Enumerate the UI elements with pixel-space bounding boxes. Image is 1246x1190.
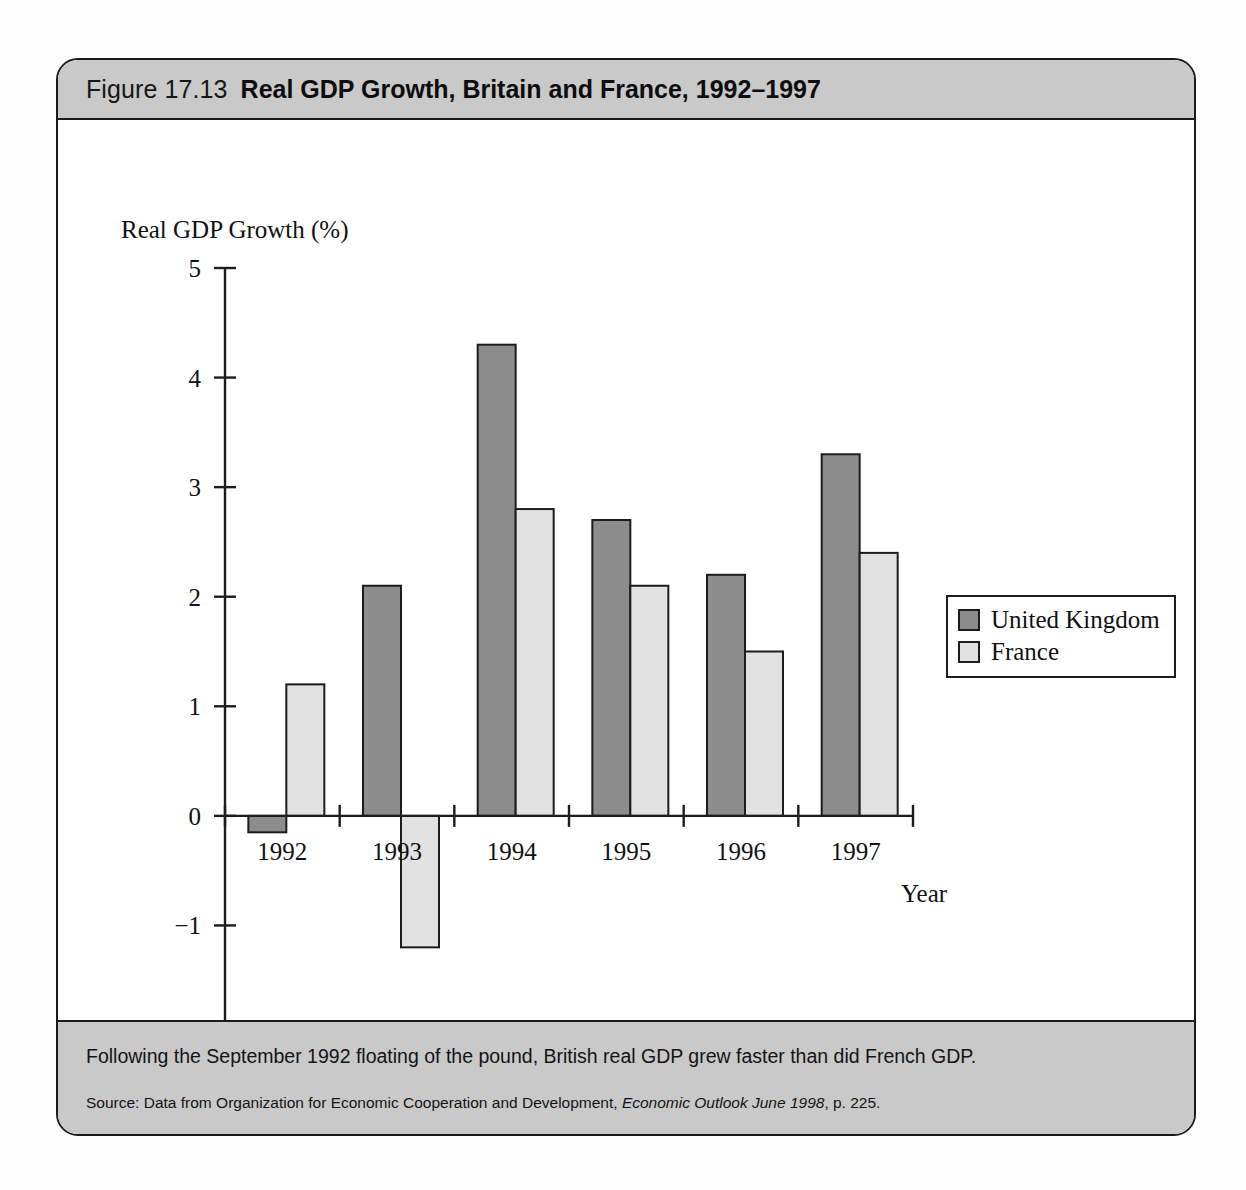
y-tick-label: −1 bbox=[174, 912, 201, 939]
y-tick-label: 5 bbox=[189, 255, 202, 282]
x-tick-label-1995: 1995 bbox=[601, 838, 651, 865]
y-tick-label: 3 bbox=[189, 474, 202, 501]
bar-france-1992 bbox=[286, 684, 324, 815]
legend-item: United Kingdom bbox=[958, 604, 1160, 636]
bar-united-kingdom-1995 bbox=[592, 520, 630, 816]
bar-united-kingdom-1993 bbox=[363, 586, 401, 816]
bar-france-1996 bbox=[745, 652, 783, 816]
y-tick-label: 0 bbox=[189, 803, 202, 830]
y-tick-label: 1 bbox=[189, 693, 202, 720]
y-tick-label: 2 bbox=[189, 584, 202, 611]
figure-caption: Following the September 1992 floating of… bbox=[86, 1044, 1174, 1068]
figure-source: Source: Data from Organization for Econo… bbox=[86, 1094, 1174, 1112]
figure-header: Figure 17.13 Real GDP Growth, Britain an… bbox=[58, 60, 1194, 120]
bar-france-1994 bbox=[516, 509, 554, 816]
bar-united-kingdom-1994 bbox=[478, 345, 516, 816]
y-tick-label: 4 bbox=[189, 365, 202, 392]
legend-label-france: France bbox=[991, 638, 1059, 666]
figure-title: Real GDP Growth, Britain and France, 199… bbox=[241, 75, 821, 104]
bar-france-1993 bbox=[401, 816, 439, 947]
bar-chart: 543210−1−2 199219931994199519961997 bbox=[58, 120, 1194, 1022]
figure-footer: Following the September 1992 floating of… bbox=[58, 1020, 1194, 1134]
x-tick-label-1992: 1992 bbox=[257, 838, 307, 865]
figure-box: Figure 17.13 Real GDP Growth, Britain an… bbox=[56, 58, 1196, 1136]
source-prefix: Source: Data from Organization for Econo… bbox=[86, 1094, 622, 1111]
legend-item: France bbox=[958, 636, 1160, 668]
bar-united-kingdom-1992 bbox=[248, 816, 286, 832]
bar-france-1997 bbox=[860, 553, 898, 816]
page-root: Figure 17.13 Real GDP Growth, Britain an… bbox=[0, 0, 1246, 1190]
source-publication: Economic Outlook June 1998 bbox=[622, 1094, 824, 1111]
x-tick-labels: 199219931994199519961997 bbox=[257, 838, 880, 865]
legend-label-united-kingdom: United Kingdom bbox=[991, 606, 1160, 634]
figure-number: Figure 17.13 bbox=[86, 75, 228, 104]
x-tick-label-1994: 1994 bbox=[487, 838, 537, 865]
plot-area: Real GDP Growth (%) Year 543210−1−2 1992… bbox=[58, 120, 1194, 1022]
bar-france-1995 bbox=[630, 586, 668, 816]
legend-swatch-france bbox=[958, 641, 980, 663]
source-suffix: , p. 225. bbox=[824, 1094, 880, 1111]
bars-group bbox=[248, 345, 897, 948]
legend-swatch-united-kingdom bbox=[958, 609, 980, 631]
bar-united-kingdom-1997 bbox=[822, 454, 860, 816]
legend: United Kingdom France bbox=[946, 595, 1176, 678]
x-tick-label-1997: 1997 bbox=[831, 838, 881, 865]
y-tick-labels: 543210−1−2 bbox=[174, 255, 201, 1022]
x-tick-label-1996: 1996 bbox=[716, 838, 766, 865]
bar-united-kingdom-1996 bbox=[707, 575, 745, 816]
x-tick-label-1993: 1993 bbox=[372, 838, 422, 865]
axis-group bbox=[214, 268, 913, 1022]
